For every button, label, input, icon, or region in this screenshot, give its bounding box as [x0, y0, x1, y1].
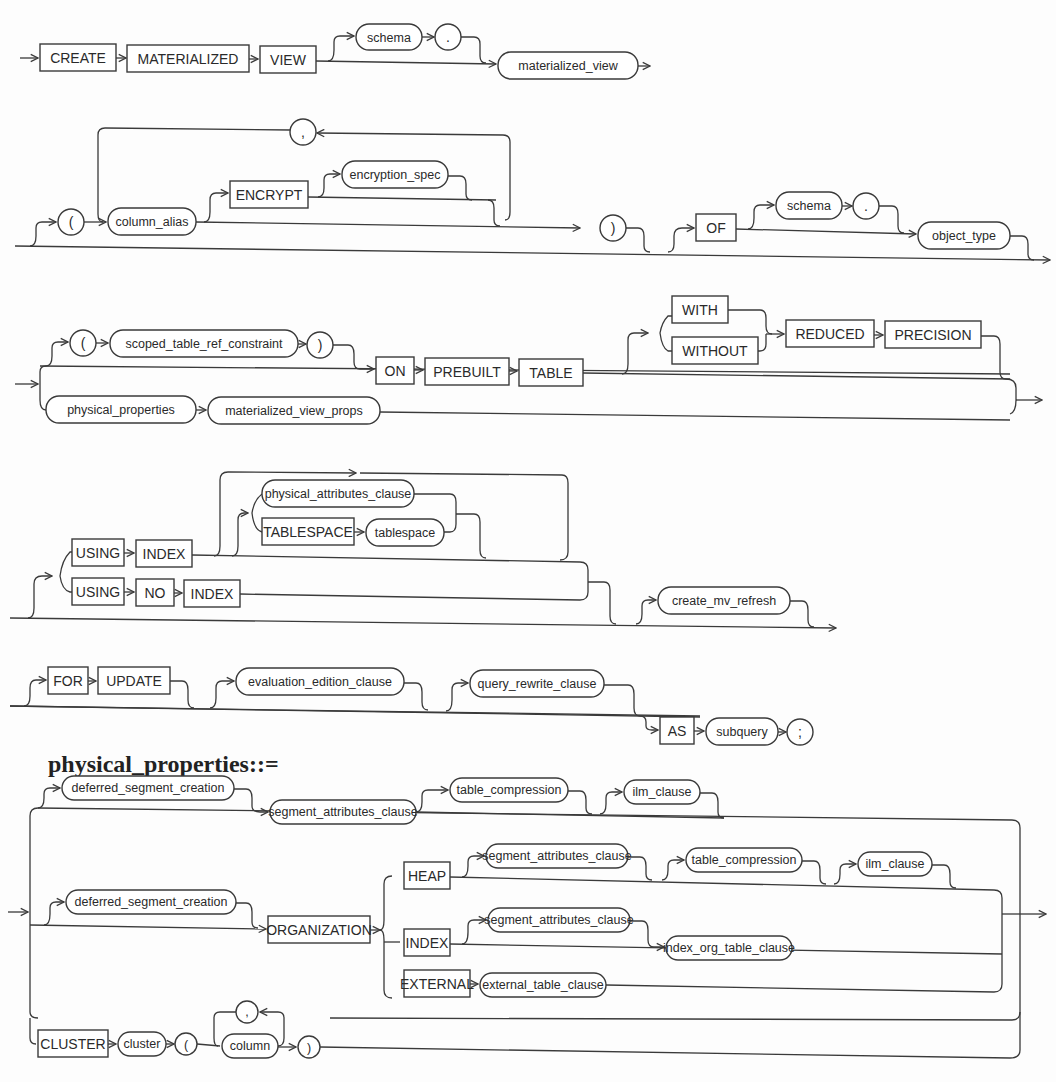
svg-text:ON: ON [385, 363, 406, 379]
nonterminal-segment-attributes-clause-2: segment_attributes_clause [482, 844, 631, 868]
svg-text:VIEW: VIEW [270, 52, 307, 68]
svg-text:scoped_table_ref_constraint: scoped_table_ref_constraint [125, 337, 283, 351]
nonterminal-column: column [222, 1034, 278, 1058]
svg-text:object_type: object_type [932, 229, 996, 243]
svg-text:REDUCED: REDUCED [795, 326, 864, 342]
svg-text:ORGANIZATION: ORGANIZATION [266, 922, 372, 938]
nonterminal-segment-attributes-clause-3: segment_attributes_clause [484, 908, 633, 932]
keyword-create: CREATE [40, 44, 116, 71]
svg-text:USING: USING [76, 545, 120, 561]
svg-text:index_org_table_clause: index_org_table_clause [663, 941, 795, 955]
svg-text:ilm_clause: ilm_clause [632, 785, 691, 799]
svg-text:WITHOUT: WITHOUT [682, 343, 748, 359]
keyword-materialized: MATERIALIZED [127, 45, 249, 72]
keyword-index: INDEX [136, 540, 192, 567]
keyword-update: UPDATE [98, 667, 170, 694]
nonterminal-ilm-clause: ilm_clause [624, 780, 700, 804]
svg-text:PREBUILT: PREBUILT [433, 364, 501, 380]
svg-text:INDEX: INDEX [143, 546, 186, 562]
nonterminal-cluster: cluster [118, 1032, 166, 1056]
keyword-organization: ORGANIZATION [266, 916, 372, 943]
keyword-encrypt: ENCRYPT [230, 181, 308, 208]
keyword-using: USING [72, 539, 124, 566]
svg-text:external_table_clause: external_table_clause [482, 978, 604, 992]
symbol-lparen: ( [58, 209, 84, 235]
symbol-rparen: ) [600, 215, 626, 241]
svg-text:USING: USING [76, 584, 120, 600]
svg-text:INDEX: INDEX [191, 586, 234, 602]
svg-text:): ) [307, 1041, 311, 1055]
keyword-prebuilt: PREBUILT [425, 358, 509, 385]
svg-text:column_alias: column_alias [116, 215, 189, 229]
symbol-comma: , [290, 119, 316, 145]
keyword-as: AS [660, 717, 694, 744]
svg-text:segment_attributes_clause: segment_attributes_clause [482, 849, 631, 863]
svg-text:OF: OF [706, 220, 725, 236]
nonterminal-deferred-segment-creation-2: deferred_segment_creation [66, 890, 236, 914]
nonterminal-table-compression-2: table_compression [686, 848, 802, 872]
nonterminal-query-rewrite-clause: query_rewrite_clause [470, 670, 604, 697]
svg-text:MATERIALIZED: MATERIALIZED [138, 51, 239, 67]
nonterminal-index-org-table-clause: index_org_table_clause [663, 936, 795, 960]
keyword-without: WITHOUT [672, 337, 758, 364]
nonterminal-segment-attributes-clause: segment_attributes_clause [268, 800, 417, 824]
svg-text:INDEX: INDEX [406, 935, 449, 951]
railroad-diagram: CREATE MATERIALIZED VIEW schema . materi… [0, 0, 1056, 1082]
nonterminal-table-compression: table_compression [450, 778, 568, 802]
svg-text:EXTERNAL: EXTERNAL [400, 976, 474, 992]
keyword-view: VIEW [260, 46, 316, 73]
keyword-index-3: INDEX [404, 929, 450, 956]
nonterminal-tablespace: tablespace [366, 519, 444, 546]
symbol-semicolon: ; [787, 719, 813, 745]
row-prebuilt-table: ( scoped_table_ref_constraint ) ON PREBU… [15, 296, 1042, 424]
nonterminal-encryption-spec: encryption_spec [342, 161, 448, 188]
keyword-precision: PRECISION [885, 321, 981, 348]
keyword-table: TABLE [519, 359, 583, 386]
row-for-update-as-subquery: FOR UPDATE evaluation_edition_clause que… [10, 667, 813, 745]
svg-text:ENCRYPT: ENCRYPT [236, 187, 303, 203]
symbol-lparen-2: ( [70, 330, 96, 356]
nonterminal-schema-2: schema [776, 192, 842, 219]
svg-text:CREATE: CREATE [50, 50, 106, 66]
keyword-reduced: REDUCED [786, 320, 874, 347]
svg-text:deferred_segment_creation: deferred_segment_creation [72, 781, 225, 795]
svg-text:physical_attributes_clause: physical_attributes_clause [265, 487, 412, 501]
svg-text:encryption_spec: encryption_spec [349, 168, 440, 182]
nonterminal-schema: schema [356, 24, 422, 50]
symbol-rparen-3: ) [298, 1036, 320, 1058]
svg-text:TABLE: TABLE [529, 365, 572, 381]
row-column-alias-of: ( , column_alias ENCRYPT encryption_spec [15, 119, 1050, 260]
svg-text:HEAP: HEAP [408, 868, 446, 884]
nonterminal-column-alias: column_alias [108, 208, 196, 235]
nonterminal-materialized-view: materialized_view [498, 52, 638, 79]
keyword-tablespace: TABLESPACE [262, 518, 354, 545]
svg-text:(: ( [81, 335, 86, 351]
nonterminal-scoped-table-ref-constraint: scoped_table_ref_constraint [110, 330, 298, 357]
svg-text:CLUSTER: CLUSTER [40, 1036, 105, 1052]
symbol-dot-2: . [853, 193, 879, 219]
svg-text:materialized_view: materialized_view [518, 59, 618, 73]
keyword-external: EXTERNAL [400, 970, 474, 997]
physical-properties-diagram: deferred_segment_creation segment_attrib… [8, 776, 1046, 1058]
row-using-index: USING INDEX physical_attributes_clause T… [10, 472, 836, 628]
svg-text:ilm_clause: ilm_clause [865, 857, 924, 871]
nonterminal-create-mv-refresh: create_mv_refresh [658, 587, 790, 614]
svg-text:schema: schema [367, 31, 411, 45]
keyword-with: WITH [672, 296, 728, 323]
svg-text:physical_properties: physical_properties [67, 403, 175, 417]
svg-text:PRECISION: PRECISION [894, 327, 971, 343]
nonterminal-object-type: object_type [918, 222, 1010, 249]
nonterminal-external-table-clause: external_table_clause [480, 973, 606, 997]
svg-text:,: , [245, 1005, 248, 1019]
symbol-dot: . [435, 24, 461, 50]
svg-text:): ) [611, 220, 616, 236]
svg-text:table_compression: table_compression [457, 783, 562, 797]
symbol-rparen-2: ) [307, 332, 333, 358]
svg-text:segment_attributes_clause: segment_attributes_clause [484, 913, 633, 927]
nonterminal-deferred-segment-creation: deferred_segment_creation [62, 776, 234, 800]
svg-text:TABLESPACE: TABLESPACE [263, 524, 353, 540]
svg-text:AS: AS [668, 723, 687, 739]
svg-text:tablespace: tablespace [375, 526, 436, 540]
svg-text:NO: NO [145, 585, 166, 601]
svg-text:WITH: WITH [682, 302, 718, 318]
